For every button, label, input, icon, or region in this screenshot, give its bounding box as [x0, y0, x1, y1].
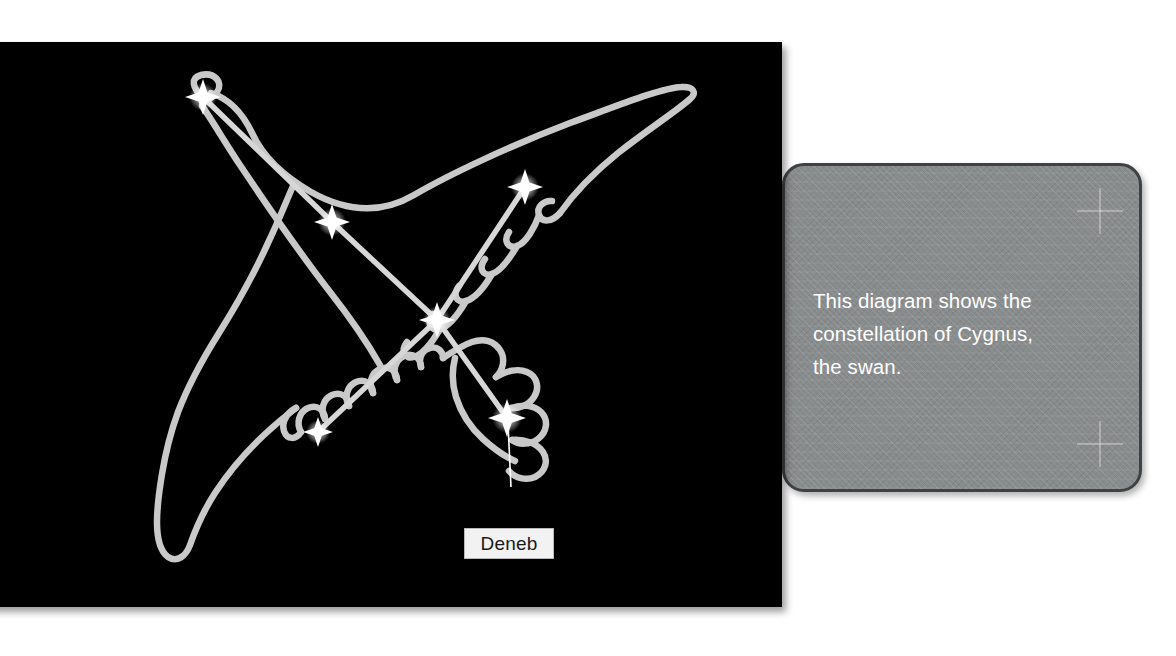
- swan-right-wing-upper-edge: [211, 87, 694, 213]
- registration-crosshair-icon: [1077, 421, 1123, 467]
- swan-tail-feather: [496, 370, 537, 408]
- swan-feather: [506, 215, 539, 247]
- constellation-line: [332, 222, 437, 320]
- deneb-label: Deneb: [464, 528, 554, 559]
- swan-neck-lower-edge: [202, 106, 380, 365]
- caption-panel: This diagram shows the constellation of …: [782, 163, 1142, 492]
- swan-feather: [420, 348, 443, 367]
- constellation-drawing: [0, 42, 782, 607]
- star-chart-panel: Deneb: [0, 42, 782, 607]
- constellation-line: [318, 320, 437, 432]
- star-icon: [507, 169, 543, 205]
- registration-crosshair-icon: [1077, 188, 1123, 234]
- constellation-line: [437, 320, 507, 418]
- swan-left-wing-lower-edge: [157, 186, 296, 559]
- caption-text: This diagram shows the constellation of …: [813, 284, 1113, 383]
- swan-feather: [482, 246, 517, 275]
- swan-feather: [538, 201, 560, 221]
